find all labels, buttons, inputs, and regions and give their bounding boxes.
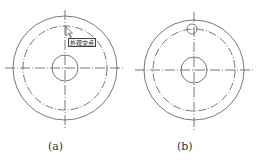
- figure-b: [135, 12, 255, 130]
- cursor-arrow-icon: [66, 27, 73, 38]
- caption-b: (b): [177, 140, 193, 153]
- snap-tooltip: 外观交点: [68, 38, 96, 47]
- figure-a: [5, 10, 125, 128]
- drawing-canvas: [0, 0, 261, 165]
- caption-a: (a): [48, 140, 63, 153]
